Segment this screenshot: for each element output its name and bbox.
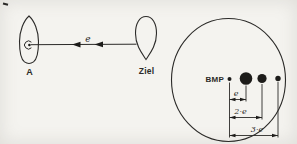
target-ziel-shape xyxy=(136,17,157,60)
beam-arrowhead-left-1 xyxy=(72,42,81,48)
pupil-dot xyxy=(28,44,31,47)
image-dot-small xyxy=(275,76,280,81)
beam-label: e xyxy=(85,34,90,44)
dim-2e-arrow-right xyxy=(256,116,262,120)
beam-line xyxy=(31,44,137,45)
image-dot-large xyxy=(240,72,253,85)
source-a-shape xyxy=(20,16,39,63)
target-ziel-label: Ziel xyxy=(139,66,154,76)
dim-e-arrow-left xyxy=(230,98,236,102)
image-dot-medium xyxy=(257,74,266,83)
dim-2e-arrow-left xyxy=(230,116,236,120)
source-a-label: A xyxy=(26,67,33,77)
dim-e-arrow-right xyxy=(240,98,246,102)
bmp-reference-dot xyxy=(228,77,232,81)
sight-view-circle-group: BMP e 2·e 3·e xyxy=(172,19,286,142)
figure-canvas: e A Ziel BMP xyxy=(0,0,297,144)
dim-3e-arrow-left xyxy=(230,134,236,138)
eye-target-setup: e A Ziel xyxy=(20,16,157,77)
dim-3e-label: 3·e xyxy=(251,125,264,134)
bmp-label: BMP xyxy=(206,75,225,84)
diagram-svg: e A Ziel BMP xyxy=(0,0,297,144)
dim-3e-arrow-right xyxy=(272,134,278,138)
dim-e-label: e xyxy=(234,89,239,98)
scan-artifact-mark xyxy=(3,4,8,5)
dim-2e-label: 2·e xyxy=(233,107,247,116)
beam-arrowhead-left-2 xyxy=(95,42,104,48)
